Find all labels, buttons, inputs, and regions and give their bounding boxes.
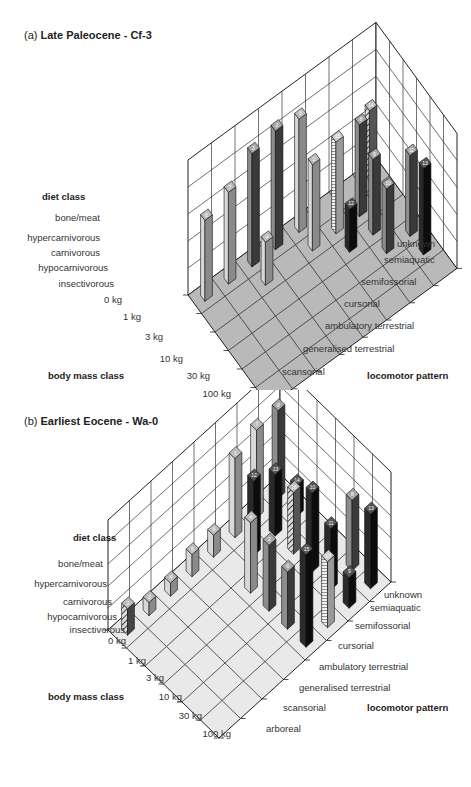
diet-label: bone/meat xyxy=(58,558,103,569)
svg-text:13: 13 xyxy=(273,466,279,472)
locomotor-tick: generalised terrestrial xyxy=(299,682,390,693)
svg-text:6: 6 xyxy=(287,563,290,569)
svg-text:4: 4 xyxy=(170,574,173,580)
bar: 16 xyxy=(288,481,301,555)
mass-tick: 0 kg xyxy=(104,294,122,305)
bar: 2 xyxy=(263,533,276,611)
svg-text:2: 2 xyxy=(127,600,130,606)
svg-text:11: 11 xyxy=(409,147,414,153)
panel-title-a: (a) Late Paleocene - Cf-3 xyxy=(24,29,152,41)
bar: 6 xyxy=(208,523,221,557)
bar: 13 xyxy=(365,502,378,589)
panel-title-text: Late Paleocene - Cf-3 xyxy=(41,29,152,41)
locomotor-tick: semifossorial xyxy=(355,620,410,631)
diet-label: insectivorous xyxy=(70,624,125,635)
svg-text:6: 6 xyxy=(205,212,208,218)
svg-text:5: 5 xyxy=(191,546,194,552)
svg-text:7: 7 xyxy=(229,184,232,190)
locomotor-tick: unknown xyxy=(397,238,435,249)
panel-title-text: Earliest Eocene - Wa-0 xyxy=(41,415,159,427)
locomotor-axis-title: locomotor pattern xyxy=(367,702,448,713)
svg-text:2: 2 xyxy=(276,122,279,128)
svg-text:13: 13 xyxy=(368,505,374,511)
bar: 17 xyxy=(322,550,335,628)
svg-text:8: 8 xyxy=(351,491,354,497)
mass-tick: 3 kg xyxy=(145,331,163,342)
svg-text:10: 10 xyxy=(310,484,316,490)
bar: 4 xyxy=(245,511,258,593)
bar: 9 xyxy=(369,148,381,235)
svg-text:8: 8 xyxy=(277,402,280,408)
svg-text:15: 15 xyxy=(335,133,341,139)
svg-text:15: 15 xyxy=(304,546,310,552)
svg-text:12: 12 xyxy=(251,472,257,478)
locomotor-tick: scansorial xyxy=(283,702,326,713)
locomotor-axis-title: locomotor pattern xyxy=(367,370,448,381)
panel-late-paleocene: 141113891015125123476 (a) Late Paleocene… xyxy=(0,0,471,400)
locomotor-tick: arboreal xyxy=(266,723,301,734)
svg-text:11: 11 xyxy=(328,520,333,526)
diet-label: insectivorous xyxy=(59,278,114,289)
svg-text:3: 3 xyxy=(252,145,255,151)
locomotor-tick: ambulatory terrestrial xyxy=(319,661,408,672)
bar: 3 xyxy=(248,142,260,267)
svg-text:10: 10 xyxy=(385,180,391,186)
mass-tick: 1 kg xyxy=(123,311,141,322)
mass-tick: 30 kg xyxy=(179,710,202,721)
bar: 13 xyxy=(269,463,282,537)
diet-label: hypercarnivorous xyxy=(34,578,107,589)
panel-earliest-eocene: 8148137131610119112176426155432 (b) Earl… xyxy=(0,390,471,787)
mass-axis-title: body mass class xyxy=(48,691,124,702)
svg-text:9: 9 xyxy=(373,151,376,157)
locomotor-tick: semiaquatic xyxy=(370,602,421,613)
locomotor-tick: cursorial xyxy=(344,298,380,309)
svg-text:1: 1 xyxy=(234,450,237,456)
svg-text:9: 9 xyxy=(348,568,351,574)
panel-prefix: (b) xyxy=(24,415,37,427)
svg-text:17: 17 xyxy=(325,553,331,559)
diet-label: carnivorous xyxy=(63,596,112,607)
diet-axis-title: diet class xyxy=(73,532,116,543)
bar: 7 xyxy=(224,181,236,284)
diet-label: hypocarnivorous xyxy=(47,611,117,622)
svg-text:14: 14 xyxy=(368,102,374,108)
bar: 8 xyxy=(355,113,367,216)
locomotor-tick: cursorial xyxy=(338,640,374,651)
svg-text:7: 7 xyxy=(256,421,259,427)
mass-tick: 100 kg xyxy=(202,728,231,739)
bar: 12 xyxy=(345,198,357,253)
svg-text:13: 13 xyxy=(422,160,428,166)
locomotor-tick: unknown xyxy=(384,589,422,600)
bar: 15 xyxy=(300,543,313,647)
locomotor-tick: semifossorial xyxy=(361,276,416,287)
diet-axis-title: diet class xyxy=(42,191,85,202)
diet-label: hypocarnivorous xyxy=(38,262,108,273)
mass-axis-title: body mass class xyxy=(48,370,124,381)
locomotor-tick: semiaquatic xyxy=(384,254,435,265)
bar: 6 xyxy=(282,560,295,629)
diet-label: bone/meat xyxy=(55,212,100,223)
mass-tick: 3 kg xyxy=(146,672,164,683)
locomotor-tick: generalised terrestrial xyxy=(303,343,394,354)
panel-prefix: (a) xyxy=(24,29,37,41)
mass-tick: 10 kg xyxy=(159,691,182,702)
panel-title-b: (b) Earliest Eocene - Wa-0 xyxy=(24,415,158,427)
svg-text:3: 3 xyxy=(148,594,151,600)
bar: 10 xyxy=(382,177,394,253)
bar: 1 xyxy=(229,447,242,538)
bar: 8 xyxy=(346,488,359,570)
diet-label: hypercarnivorous xyxy=(27,232,100,243)
svg-text:1: 1 xyxy=(313,156,316,162)
svg-text:5: 5 xyxy=(299,110,302,116)
bar: 5 xyxy=(186,543,199,577)
svg-text:4: 4 xyxy=(266,234,269,240)
svg-text:6: 6 xyxy=(213,526,216,532)
bar: 9 xyxy=(343,565,356,608)
svg-text:16: 16 xyxy=(291,484,297,490)
mass-tick: 30 kg xyxy=(187,370,210,381)
svg-text:8: 8 xyxy=(360,116,363,122)
bar: 1 xyxy=(308,153,320,251)
bar: 6 xyxy=(201,209,213,301)
mass-tick: 1 kg xyxy=(128,655,146,666)
locomotor-tick: scansorial xyxy=(282,366,325,377)
